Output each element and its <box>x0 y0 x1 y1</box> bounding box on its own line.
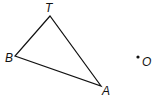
point-o-dot <box>136 55 139 58</box>
triangle-bta <box>15 16 101 86</box>
point-label-o: O <box>142 55 151 69</box>
vertex-label-a: A <box>101 84 110 98</box>
vertex-label-b: B <box>5 51 13 65</box>
diagram-canvas: T B A O <box>0 0 153 102</box>
vertex-label-t: T <box>45 1 54 15</box>
